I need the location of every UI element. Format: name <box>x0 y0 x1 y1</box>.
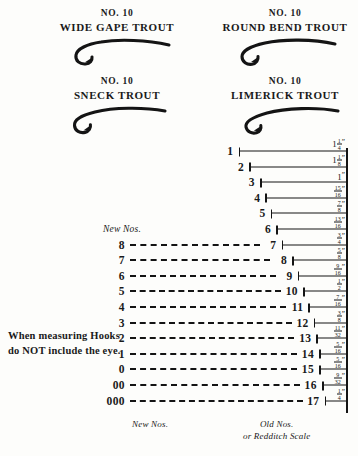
new-scale-dashed-bar <box>130 244 260 246</box>
measurement-label: 78″ <box>337 200 345 214</box>
specimen-sneck-trout: NO. 10 SNECK TROUT <box>52 76 182 137</box>
measurement-label: 516″ <box>334 356 345 370</box>
measurement-label: 1″ <box>337 172 345 182</box>
measurement-label: 58″ <box>337 247 345 261</box>
measurement-label: 1516″ <box>334 184 345 198</box>
new-scale-dashed-bar <box>130 353 297 355</box>
measurement-label: 916″ <box>334 262 345 276</box>
old-nos-footer-line-1: Old Nos. <box>243 418 310 430</box>
specimen-wide-gape-trout: NO. 10 WIDE GAPE TROUT <box>52 8 182 69</box>
new-scale-dashed-bar <box>130 259 270 261</box>
old-number-label: 13 <box>299 332 311 344</box>
old-number-label: 8 <box>281 254 287 266</box>
specimen-name-label: SNECK TROUT <box>52 89 182 101</box>
old-number-label: 16 <box>305 379 317 391</box>
measurement-label: 34″ <box>337 231 345 245</box>
new-number-label: 0 <box>0 363 125 375</box>
measurement-label: 1316″ <box>334 216 345 230</box>
measurement-label: 38″ <box>337 309 345 323</box>
old-number-label: 17 <box>307 395 319 407</box>
fish-hook-icon <box>220 103 350 137</box>
old-number-label: 3 <box>249 176 255 188</box>
old-number-label: 14 <box>302 348 314 360</box>
measurement-label: 12″ <box>337 278 345 292</box>
new-scale-dashed-bar <box>130 290 281 292</box>
new-number-label: 00 <box>0 379 125 391</box>
new-number-label: 6 <box>0 270 125 282</box>
measurement-label: 716″ <box>334 294 345 308</box>
old-nos-footer: Old Nos. or Redditch Scale <box>243 418 310 442</box>
specimen-limerick-trout: NO. 10 LIMERICK TROUT <box>220 76 350 137</box>
specimen-round-bend-trout: NO. 10 ROUND BEND TROUT <box>220 8 350 69</box>
scale-right-axis-rule <box>346 148 348 413</box>
old-number-label: 2 <box>238 161 244 173</box>
new-number-label: 1 <box>0 348 125 360</box>
measurement-label: 118″ <box>332 153 345 167</box>
old-number-label: 12 <box>296 317 308 329</box>
specimen-number-label: NO. 10 <box>220 76 350 86</box>
specimen-name-label: LIMERICK TROUT <box>220 89 350 101</box>
measurement-label: 1132″ <box>334 325 345 339</box>
new-scale-dashed-bar <box>130 306 286 308</box>
old-number-label: 7 <box>270 239 276 251</box>
measurement-label: 932″ <box>334 372 345 386</box>
old-number-label: 10 <box>286 285 298 297</box>
new-number-label: 8 <box>0 239 125 251</box>
fish-hook-icon <box>220 35 350 69</box>
old-number-label: 9 <box>286 270 292 282</box>
new-scale-dashed-bar <box>130 337 294 339</box>
specimen-number-label: NO. 10 <box>220 8 350 18</box>
new-scale-dashed-bar <box>130 384 300 386</box>
specimen-name-label: ROUND BEND TROUT <box>220 21 350 33</box>
new-number-label: 4 <box>0 301 125 313</box>
old-number-label: 1 <box>227 145 233 157</box>
new-number-label: 5 <box>0 285 125 297</box>
specimen-number-label: NO. 10 <box>52 76 182 86</box>
old-number-label: 11 <box>292 301 304 313</box>
new-nos-footer: New Nos. <box>132 418 168 430</box>
new-nos-header-top: New Nos. <box>103 224 141 234</box>
new-number-label: 2 <box>0 332 125 344</box>
old-number-label: 15 <box>302 363 314 375</box>
old-scale-bar <box>271 213 346 214</box>
measurement-label: 516″ <box>334 340 345 354</box>
old-number-label: 6 <box>265 223 271 235</box>
fish-hook-icon <box>52 103 182 137</box>
new-scale-dashed-bar <box>130 400 303 402</box>
old-scale-bar <box>260 182 346 183</box>
new-scale-dashed-bar <box>130 322 292 324</box>
specimen-name-label: WIDE GAPE TROUT <box>52 21 182 33</box>
old-number-label: 5 <box>260 207 266 219</box>
new-number-label: 000 <box>0 395 125 407</box>
new-number-label: 3 <box>0 317 125 329</box>
hook-size-scale-chart: New Nos. 1114″2118″31″41516″578″61316″73… <box>0 142 358 432</box>
new-number-label: 7 <box>0 254 125 266</box>
measurement-label: 114″ <box>332 138 345 152</box>
old-nos-footer-line-2: or Redditch Scale <box>243 430 310 442</box>
new-scale-dashed-bar <box>130 368 297 370</box>
old-number-label: 4 <box>254 192 260 204</box>
specimen-number-label: NO. 10 <box>52 8 182 18</box>
measurement-label: 14″ <box>337 387 345 401</box>
new-scale-dashed-bar <box>130 275 276 277</box>
fish-hook-icon <box>52 35 182 69</box>
old-scale-bar <box>239 151 347 152</box>
